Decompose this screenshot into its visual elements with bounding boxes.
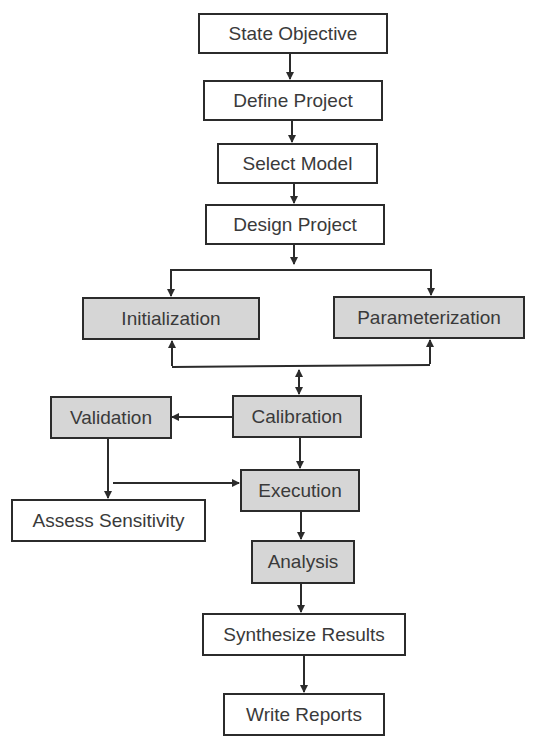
node-label: Parameterization xyxy=(357,307,501,329)
node-label: Synthesize Results xyxy=(223,624,385,646)
node-label: Design Project xyxy=(233,214,357,236)
node-parameterization: Parameterization xyxy=(333,296,525,339)
node-label: Assess Sensitivity xyxy=(32,510,184,532)
node-write-reports: Write Reports xyxy=(223,693,385,736)
node-calibration: Calibration xyxy=(232,395,362,438)
node-define-project: Define Project xyxy=(203,80,383,121)
node-analysis: Analysis xyxy=(251,540,355,584)
node-label: Select Model xyxy=(243,153,353,175)
node-validation: Validation xyxy=(50,396,172,439)
node-label: Validation xyxy=(70,407,152,429)
node-design-project: Design Project xyxy=(205,204,385,245)
node-label: Write Reports xyxy=(246,704,362,726)
node-synthesize-results: Synthesize Results xyxy=(202,613,406,656)
node-assess-sensitivity: Assess Sensitivity xyxy=(11,499,206,542)
arrow-to-parameterization xyxy=(171,270,431,295)
node-label: Calibration xyxy=(252,406,343,428)
node-select-model: Select Model xyxy=(217,143,378,184)
node-state-objective: State Objective xyxy=(198,13,388,54)
node-execution: Execution xyxy=(240,469,360,512)
node-label: State Objective xyxy=(229,23,358,45)
node-label: Analysis xyxy=(268,551,339,573)
arrow-to-initialization xyxy=(171,270,431,296)
node-label: Initialization xyxy=(121,308,220,330)
node-label: Define Project xyxy=(233,90,352,112)
bus-init-param xyxy=(172,365,430,367)
node-initialization: Initialization xyxy=(82,297,260,340)
node-label: Execution xyxy=(258,480,341,502)
